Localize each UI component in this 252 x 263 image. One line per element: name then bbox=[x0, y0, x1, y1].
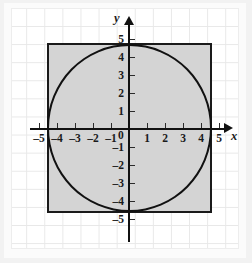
x-tick-label-neg2: –2 bbox=[83, 133, 103, 145]
plot-area: –5 –4 –3 –2 –1 1 2 3 4 5 0 5 4 3 2 1 –1 … bbox=[0, 0, 252, 263]
x-axis-label: x bbox=[231, 129, 237, 144]
y-tick-mark bbox=[130, 93, 135, 94]
y-axis-arrow-icon bbox=[124, 16, 134, 25]
y-tick-label-2: 2 bbox=[102, 88, 124, 100]
y-tick-label-5: 5 bbox=[102, 34, 124, 46]
figure-canvas: –5 –4 –3 –2 –1 1 2 3 4 5 0 5 4 3 2 1 –1 … bbox=[0, 0, 252, 263]
x-tick-mark bbox=[57, 123, 58, 128]
y-tick-mark bbox=[130, 111, 135, 112]
x-tick-mark bbox=[93, 123, 94, 128]
y-tick-mark bbox=[130, 57, 135, 58]
x-tick-label-4: 4 bbox=[191, 133, 211, 145]
y-tick-mark bbox=[130, 201, 135, 202]
y-tick-label-3: 3 bbox=[102, 70, 124, 82]
y-tick-mark bbox=[130, 183, 135, 184]
x-tick-mark bbox=[183, 123, 184, 128]
x-tick-label-neg4: –4 bbox=[47, 133, 67, 145]
x-tick-mark bbox=[201, 123, 202, 128]
origin-label: 0 bbox=[118, 130, 124, 142]
x-tick-label-3: 3 bbox=[173, 133, 193, 145]
y-tick-mark bbox=[130, 39, 135, 40]
x-tick-label-neg3: –3 bbox=[65, 133, 85, 145]
x-tick-label-neg5: –5 bbox=[29, 133, 49, 145]
x-tick-mark bbox=[165, 123, 166, 128]
x-tick-label-1: 1 bbox=[137, 133, 157, 145]
y-tick-label-neg3: –3 bbox=[102, 178, 124, 190]
x-tick-label-5: 5 bbox=[209, 133, 229, 145]
x-tick-mark bbox=[75, 123, 76, 128]
y-tick-label-1: 1 bbox=[102, 106, 124, 118]
y-tick-label-4: 4 bbox=[102, 52, 124, 64]
y-tick-mark bbox=[130, 165, 135, 166]
x-tick-mark bbox=[39, 123, 40, 128]
x-tick-label-2: 2 bbox=[155, 133, 175, 145]
y-tick-label-neg2: –2 bbox=[102, 160, 124, 172]
y-tick-label-neg1: –1 bbox=[102, 142, 124, 154]
x-tick-mark bbox=[219, 123, 220, 128]
y-tick-mark bbox=[130, 147, 135, 148]
y-tick-mark bbox=[130, 219, 135, 220]
y-tick-label-neg4: –4 bbox=[102, 196, 124, 208]
x-tick-mark bbox=[111, 123, 112, 128]
y-tick-mark bbox=[130, 75, 135, 76]
y-axis-label: y bbox=[114, 11, 120, 26]
x-tick-mark bbox=[147, 123, 148, 128]
y-tick-label-neg5: –5 bbox=[102, 214, 124, 226]
